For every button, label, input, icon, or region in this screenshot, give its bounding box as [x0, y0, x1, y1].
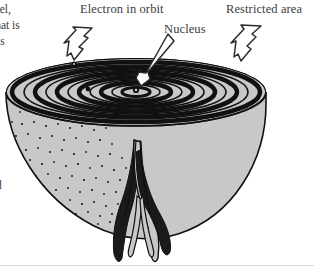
- body-text-fragment-2: that is: [0, 18, 20, 33]
- body-text-fragment-4: d: [0, 178, 2, 193]
- body-text-fragment-3: is: [0, 34, 5, 49]
- label-restricted-area: Restricted area: [226, 2, 302, 16]
- electron-pointer-arrow: [64, 27, 92, 60]
- body-text-fragment-1: del,: [0, 2, 11, 17]
- figure-canvas: Electron in orbit Nucleus Restricted are…: [0, 0, 314, 266]
- label-nucleus: Nucleus: [164, 22, 206, 36]
- atom-model-illustration: [0, 0, 314, 266]
- electron-dot-inner: [86, 87, 91, 92]
- nucleus-dot-core: [135, 89, 138, 92]
- restricted-pointer-arrow: [231, 25, 261, 61]
- label-electron-in-orbit: Electron in orbit: [80, 2, 164, 16]
- electron-dot-upper-core: [73, 63, 75, 65]
